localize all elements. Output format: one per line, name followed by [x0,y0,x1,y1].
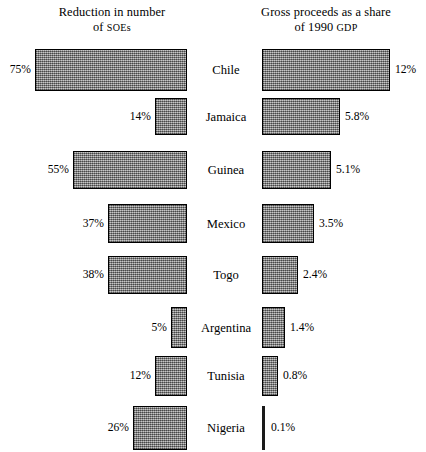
left-series-cell: 38% [0,256,187,294]
country-label: Guinea [192,164,260,177]
bar-value-label-right: 2.4% [303,269,327,281]
country-label: Chile [192,64,260,77]
right-series-cell: 0.1% [262,406,426,450]
chart-row: 75%Chile12% [0,49,426,91]
bar-reduction-soes: 38% [108,256,187,294]
bar-value-label-left: 14% [130,111,151,123]
right-column-title: Gross proceeds as a share of 1990 GDP [228,5,424,35]
bar-gross-proceeds: 0.1% [262,406,265,450]
bar-value-label-left: 75% [10,64,31,76]
bar-reduction-soes: 5% [171,307,187,348]
right-column-title-line1: Gross proceeds as a share [228,5,424,20]
country-label: Argentina [192,321,260,334]
bar-reduction-soes: 55% [73,151,187,189]
left-column-title-line2: of SOEs [14,20,210,35]
left-title-prefix: of [93,20,107,34]
bar-reduction-soes: 37% [108,204,187,243]
bar-value-label-right: 3.5% [319,218,343,230]
country-label: Jamaica [192,110,260,123]
country-label: Togo [192,269,260,282]
country-label: Nigeria [192,422,260,435]
bar-value-label-left: 55% [48,164,69,176]
chart-row: 14%Jamaica5.8% [0,98,426,135]
chart-header: Reduction in number of SOEs Gross procee… [0,0,426,44]
bar-value-label-left: 26% [108,422,129,434]
right-title-smallcaps: GDP [337,22,358,33]
right-series-cell: 5.1% [262,151,426,189]
bar-reduction-soes: 14% [155,98,187,135]
right-series-cell: 5.8% [262,98,426,135]
bar-reduction-soes: 12% [155,356,187,396]
left-column-title: Reduction in number of SOEs [14,5,210,35]
left-series-cell: 75% [0,49,187,91]
bar-value-label-right: 1.4% [290,322,314,334]
chart-row: 26%Nigeria0.1% [0,406,426,450]
bar-gross-proceeds: 3.5% [262,204,314,243]
bar-value-label-left: 37% [83,218,104,230]
right-series-cell: 3.5% [262,204,426,243]
right-title-prefix: of 1990 [294,20,336,34]
left-series-cell: 55% [0,151,187,189]
bar-gross-proceeds: 5.1% [262,151,331,189]
bar-gross-proceeds: 2.4% [262,256,298,294]
bar-value-label-right: 5.1% [336,164,360,176]
bar-value-label-right: 5.8% [345,111,369,123]
left-title-smallcaps: SOEs [107,22,131,33]
right-series-cell: 2.4% [262,256,426,294]
country-label: Tunisia [192,370,260,383]
right-series-cell: 0.8% [262,356,426,396]
left-series-cell: 5% [0,307,187,348]
bar-value-label-right: 0.8% [283,370,307,382]
left-series-cell: 14% [0,98,187,135]
bar-reduction-soes: 75% [35,49,187,91]
bar-value-label-left: 38% [83,269,104,281]
chart-row: 55%Guinea5.1% [0,151,426,189]
chart-row: 37%Mexico3.5% [0,204,426,243]
bar-reduction-soes: 26% [133,406,187,450]
right-series-cell: 1.4% [262,307,426,348]
bar-gross-proceeds: 1.4% [262,307,285,348]
privatization-bar-chart: Reduction in number of SOEs Gross procee… [0,0,426,452]
bar-gross-proceeds: 0.8% [262,356,278,396]
bar-gross-proceeds: 12% [262,49,390,91]
bar-gross-proceeds: 5.8% [262,98,340,135]
left-series-cell: 37% [0,204,187,243]
right-column-title-line2: of 1990 GDP [228,20,424,35]
bar-value-label-right: 12% [395,64,416,76]
bar-value-label-left: 12% [130,370,151,382]
chart-row: 5%Argentina1.4% [0,307,426,348]
country-label: Mexico [192,217,260,230]
bar-value-label-right: 0.1% [271,422,295,434]
left-column-title-line1: Reduction in number [14,5,210,20]
chart-row: 38%Togo2.4% [0,256,426,294]
right-series-cell: 12% [262,49,426,91]
bar-value-label-left: 5% [152,322,167,334]
chart-row: 12%Tunisia0.8% [0,356,426,396]
left-series-cell: 12% [0,356,187,396]
left-series-cell: 26% [0,406,187,450]
